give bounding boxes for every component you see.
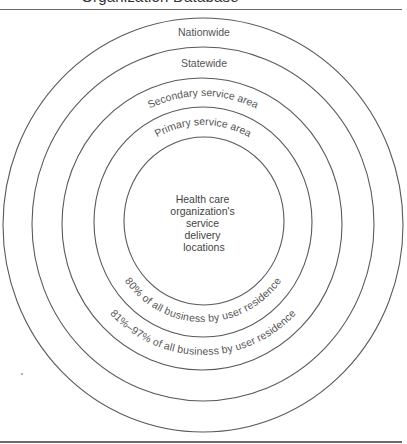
- core-label: Health care organization's service deliv…: [170, 193, 237, 253]
- label-primary-area: Primary service area: [152, 115, 254, 139]
- speck: [21, 373, 23, 375]
- concentric-market-diagram: Nationwide Statewide Secondary service a…: [0, 0, 407, 444]
- label-nationwide: Nationwide: [178, 26, 230, 38]
- label-statewide: Statewide: [181, 57, 227, 69]
- bottom-rule: [0, 441, 402, 443]
